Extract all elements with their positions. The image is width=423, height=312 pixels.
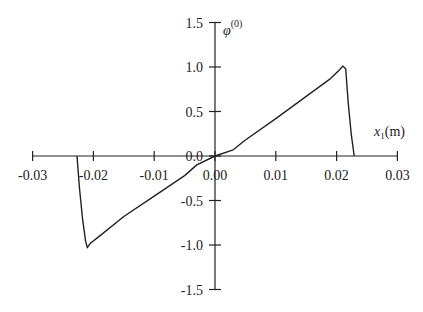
x-tick-label: 0.03: [385, 168, 410, 183]
y-tick-label: 1.5: [186, 16, 204, 31]
x-tick-labels: -0.03-0.02-0.010.000.010.020.03: [18, 168, 410, 183]
phi-vs-x1-chart: -0.03-0.02-0.010.000.010.020.03 1.51.00.…: [0, 0, 423, 312]
y-tick-label: -1.5: [181, 283, 203, 298]
phi-curve: [77, 66, 354, 248]
x-tick-label: -0.02: [79, 168, 108, 183]
x-tick-label: -0.03: [18, 168, 47, 183]
y-tick-label: -0.5: [181, 194, 203, 209]
y-axis-title: φ(0): [223, 18, 242, 38]
x-tick-label: 0.02: [324, 168, 349, 183]
y-tick-label: -1.0: [181, 238, 203, 253]
x-tick-label: 0.01: [264, 168, 289, 183]
y-tick-label: 0.5: [186, 105, 204, 120]
x-tick-label: -0.01: [140, 168, 169, 183]
y-tick-label: 1.0: [186, 60, 204, 75]
y-tick-label: 0.0: [186, 149, 204, 164]
x-tick-label: 0.00: [203, 168, 228, 183]
x-axis-title: x1(m): [373, 124, 405, 141]
